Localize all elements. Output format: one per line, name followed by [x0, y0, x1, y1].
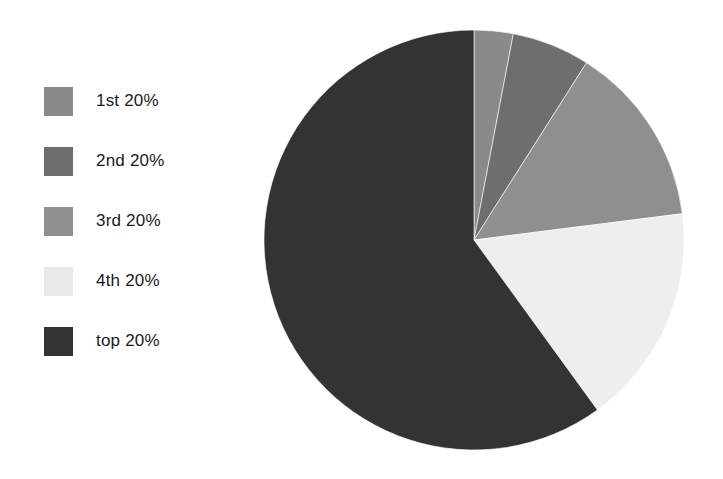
- legend-label-3rd-20: 3rd 20%: [96, 211, 161, 231]
- legend-swatch-4th-20: [44, 267, 73, 296]
- legend-label-2nd-20: 2nd 20%: [96, 151, 165, 171]
- pie-slice-group: [264, 30, 684, 450]
- legend-item-3rd-20[interactable]: 3rd 20%: [44, 206, 214, 236]
- legend-label-top-20: top 20%: [96, 331, 160, 351]
- legend-item-4th-20[interactable]: 4th 20%: [44, 266, 214, 296]
- pie-graphic: [262, 28, 686, 452]
- legend-item-1st-20[interactable]: 1st 20%: [44, 86, 214, 116]
- legend-label-1st-20: 1st 20%: [96, 91, 159, 111]
- legend-swatch-2nd-20: [44, 147, 73, 176]
- legend-swatch-top-20: [44, 327, 73, 356]
- legend-item-2nd-20[interactable]: 2nd 20%: [44, 146, 214, 176]
- pie-svg: [262, 28, 686, 452]
- legend-swatch-3rd-20: [44, 207, 73, 236]
- pie-chart-figure: 1st 20% 2nd 20% 3rd 20% 4th 20% top 20%: [0, 0, 723, 479]
- chart-legend: 1st 20% 2nd 20% 3rd 20% 4th 20% top 20%: [44, 86, 214, 356]
- legend-swatch-1st-20: [44, 87, 73, 116]
- legend-label-4th-20: 4th 20%: [96, 271, 160, 291]
- legend-item-top-20[interactable]: top 20%: [44, 326, 214, 356]
